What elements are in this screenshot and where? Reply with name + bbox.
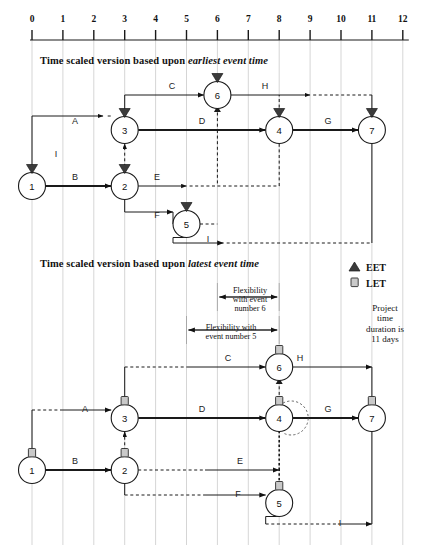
activity-label-b: B [68, 456, 82, 466]
nodes-top-diagram: 1235647 [19, 74, 386, 238]
event-node-label: 3 [122, 413, 127, 424]
axis-tick-label: 4 [149, 14, 163, 24]
event-node-label: 6 [277, 362, 282, 373]
eet-marker [27, 165, 38, 174]
activity-label-c: C [221, 353, 235, 363]
activity-label-i: I [49, 149, 63, 159]
event-node-label: 5 [277, 498, 282, 509]
event-node[interactable]: 4 [266, 397, 293, 432]
project-duration-note: Projecttimeduration is11 days [345, 303, 425, 344]
axis-tick-label: 0 [25, 14, 39, 24]
event-node[interactable]: 5 [266, 482, 293, 517]
axis-tick-label: 8 [272, 14, 286, 24]
event-node-label: 3 [122, 125, 127, 136]
event-node-label: 7 [369, 125, 374, 136]
event-node[interactable]: 6 [204, 74, 231, 109]
axis-tick-label: 6 [210, 14, 224, 24]
event-node-label: 4 [277, 413, 282, 424]
eet-marker [119, 165, 130, 174]
event-node[interactable]: 7 [358, 397, 385, 432]
activity-label-c: C [165, 81, 179, 91]
event-node-label: 1 [29, 465, 34, 476]
eet-marker [119, 109, 130, 118]
event-node[interactable]: 1 [19, 449, 46, 484]
event-node-label: 4 [277, 125, 282, 136]
axis-tick-label: 10 [334, 14, 348, 24]
axis-tick-label: 1 [56, 14, 70, 24]
event-node[interactable]: 1 [19, 165, 46, 200]
activity-label-d: D [195, 404, 209, 414]
let-marker [276, 346, 283, 354]
activity-label-d: D [195, 116, 209, 126]
let-marker [276, 482, 283, 490]
activity-label-f: F [231, 489, 245, 499]
nodes-bottom-diagram: 1235647 [19, 346, 386, 517]
axis-tick-label: 2 [87, 14, 101, 24]
network-diagram-page: 1235647 1235647 Time scaled version base… [0, 0, 431, 549]
activity-label-g: G [321, 404, 335, 414]
activity-label-i: I [201, 234, 215, 244]
activity-label-i: I [333, 518, 347, 528]
title-bottom-diagram: Time scaled version based upon latest ev… [40, 258, 259, 269]
activity-label-a: A [78, 404, 92, 414]
event-node-label: 5 [184, 219, 189, 230]
eet-marker [366, 109, 377, 118]
let-marker [121, 397, 128, 405]
activity-label-e: E [233, 456, 247, 466]
axis-tick-label: 7 [241, 14, 255, 24]
let-marker [121, 449, 128, 457]
event-node[interactable]: 3 [111, 397, 138, 432]
event-node-label: 6 [215, 90, 220, 101]
let-marker [276, 397, 283, 405]
legend-eet-label: EET [366, 262, 386, 273]
axis-tick-label: 11 [365, 14, 379, 24]
flexibility-event6-label: Flexibilitywith eventnumber 6 [215, 286, 285, 314]
eet-marker [212, 74, 223, 83]
activity-label-b: B [68, 172, 82, 182]
event-node[interactable]: 2 [111, 165, 138, 200]
edges-bottom-diagram [32, 367, 372, 524]
legend-markers [349, 262, 360, 287]
activity-label-a: A [68, 116, 82, 126]
axis-tick-label: 5 [180, 14, 194, 24]
diagram-canvas: 1235647 1235647 [0, 0, 431, 549]
event-node-label: 7 [369, 413, 374, 424]
event-node-label: 1 [29, 181, 34, 192]
event-node[interactable]: 3 [111, 109, 138, 144]
title-top-diagram: Time scaled version based upon earliest … [40, 55, 268, 66]
event-node[interactable]: 4 [266, 109, 293, 144]
event-node[interactable]: 7 [358, 109, 385, 144]
axis-tick-label: 9 [303, 14, 317, 24]
legend-eet-icon [349, 262, 360, 271]
event-node[interactable]: 5 [173, 203, 200, 238]
let-marker [28, 449, 35, 457]
event-node[interactable]: 2 [111, 449, 138, 484]
activity-label-g: G [321, 116, 335, 126]
legend-let-label: LET [366, 278, 386, 289]
activity-label-h: H [258, 81, 272, 91]
eet-marker [181, 203, 192, 212]
event-node-label: 2 [122, 465, 127, 476]
activity-label-h: H [293, 353, 307, 363]
legend-let-icon [351, 278, 358, 287]
axis-tick-label: 3 [118, 14, 132, 24]
activity-label-f: F [150, 210, 164, 220]
let-marker [368, 397, 375, 405]
activity-label-e: E [150, 172, 164, 182]
event-node[interactable]: 6 [266, 346, 293, 381]
flexibility-event5-label: Flexibility withevent number 5 [182, 323, 280, 341]
eet-marker [274, 109, 285, 118]
event-node-label: 2 [122, 181, 127, 192]
axis-tick-label: 12 [396, 14, 410, 24]
axis-line [30, 30, 409, 40]
